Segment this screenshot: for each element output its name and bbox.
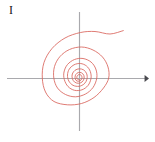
curve-group <box>42 31 123 105</box>
axes-group <box>7 12 149 131</box>
spiral-plot <box>0 0 155 142</box>
figure-container: I <box>0 0 155 142</box>
x-axis-arrow-icon <box>145 75 149 82</box>
inward-spiral-curve <box>42 31 123 105</box>
